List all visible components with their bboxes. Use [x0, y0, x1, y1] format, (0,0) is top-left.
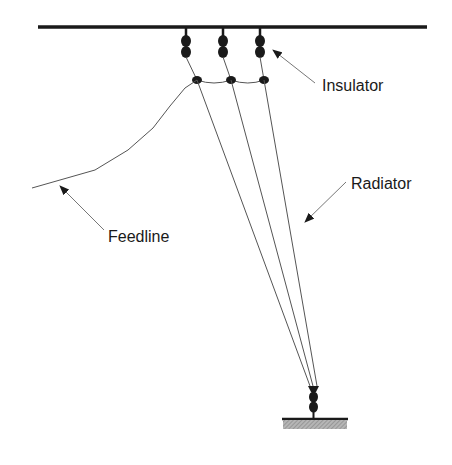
bottom-insulator-icon — [308, 386, 319, 419]
radiator-label: Radiator — [351, 176, 411, 192]
feedline-arrow — [60, 186, 104, 230]
feedline-wire — [32, 80, 197, 188]
insulator-icon — [255, 27, 265, 58]
radiator-wires — [197, 80, 317, 386]
ground-icon — [282, 419, 348, 429]
insulator-icon — [218, 27, 228, 58]
insulator-label: Insulator — [322, 78, 383, 94]
feedline-label: Feedline — [108, 229, 169, 245]
insulator-icon — [181, 27, 191, 58]
insulator-arrow — [273, 50, 315, 83]
radiator-arrow — [305, 182, 346, 222]
junction-nodes — [192, 76, 269, 84]
antenna-diagram — [0, 0, 452, 465]
